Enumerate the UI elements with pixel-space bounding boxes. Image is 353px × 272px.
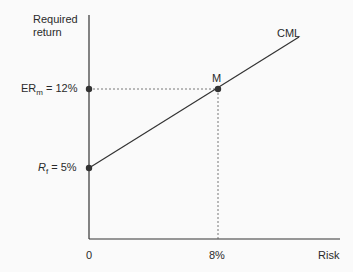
rf-value: = 5% [48,161,76,173]
y-axis-label-line1: Required [33,13,78,26]
erm-sub: m [36,88,43,97]
erm-point [86,86,92,92]
x-axis-label: Risk [318,249,339,262]
erm-value: = 12% [43,82,78,94]
y-axis-label-line2: return [33,26,78,39]
y-axis-label: Required return [33,13,78,39]
market-portfolio-point [215,86,221,92]
x-tick-eight: 8% [209,249,225,262]
m-label: M [212,72,221,85]
erm-main: ER [21,82,36,94]
rf-main: R [38,161,46,173]
erm-tick-label: ERm = 12% [21,82,78,99]
chart-plot [0,0,353,272]
cml-line [89,37,299,168]
rf-point [86,165,92,171]
x-tick-zero: 0 [86,249,92,262]
rf-tick-label: Rf = 5% [38,161,77,178]
cml-label: CML [277,27,300,40]
